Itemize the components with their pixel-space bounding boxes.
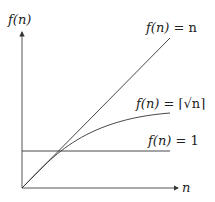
sqrt-curve	[22, 113, 170, 188]
sqrt-label: f(n) = ⌈√n⌉	[135, 96, 205, 111]
linear-label: f(n) = n	[145, 20, 197, 35]
y-axis-label: f(n)	[7, 12, 31, 27]
growth-diagram: f(n) n f(n) = n f(n) = ⌈√n⌉ f(n) = 1	[0, 0, 215, 202]
constant-label: f(n) = 1	[147, 133, 199, 148]
x-axis-label: n	[182, 180, 190, 195]
